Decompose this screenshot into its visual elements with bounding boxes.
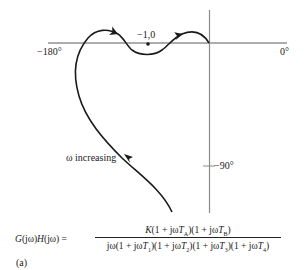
critical-point-dot — [146, 42, 150, 46]
frequency-response-curve — [76, 30, 209, 212]
formula-fraction: K(1 + jωTA)(1 + jωTB) jω(1 + jωT1)(1 + j… — [95, 224, 281, 252]
minus-180-label: −180° — [37, 47, 62, 57]
fraction-bar — [95, 237, 281, 238]
arrow-icon — [109, 27, 120, 38]
omega-increasing-label: ω increasing — [66, 153, 116, 163]
formula-lhs: G(jω)H(jω) = — [15, 234, 67, 244]
minus-90-label: −90° — [214, 161, 234, 171]
transfer-function-formula: G(jω)H(jω) = K(1 + jωTA)(1 + jωTB) jω(1 … — [15, 224, 305, 256]
figure-caption: (a) — [16, 257, 27, 268]
critical-point-label: −1,0 — [137, 30, 155, 40]
zero-degree-label: 0° — [280, 47, 289, 57]
formula-numerator: K(1 + jωTA)(1 + jωTB) — [95, 224, 281, 236]
formula-denominator: jω(1 + jωT1)(1 + jωT2)(1 + jωT3)(1 + jωT… — [95, 240, 281, 252]
